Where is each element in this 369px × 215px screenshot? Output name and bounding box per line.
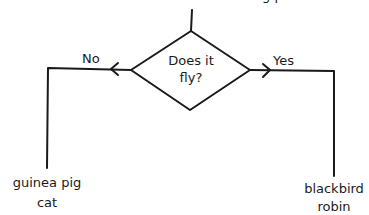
yes-branch-label: Yes xyxy=(273,53,294,68)
result-item: cat xyxy=(2,195,92,210)
yes-branch-results: blackbird robin xyxy=(294,181,369,214)
result-item: blackbird xyxy=(294,181,369,196)
result-item: guinea pig xyxy=(2,175,92,190)
yes-branch-connector xyxy=(250,70,334,176)
top-clipped-text: g p xyxy=(262,0,283,3)
result-item: robin xyxy=(294,199,369,214)
no-branch-results: guinea pig cat xyxy=(2,175,92,210)
no-branch-connector xyxy=(47,68,131,168)
decision-question-line2: fly? xyxy=(151,70,231,85)
decision-question: Does it fly? xyxy=(151,53,231,85)
decision-question-line1: Does it xyxy=(151,53,231,68)
incoming-connector xyxy=(191,10,192,31)
no-branch-label: No xyxy=(82,51,100,66)
